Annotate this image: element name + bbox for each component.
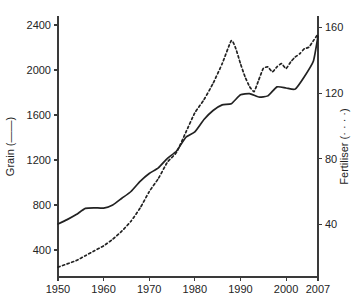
right-tick-label: 160 bbox=[325, 21, 343, 33]
grain-fertiliser-line-chart: 4008001200160020002400 4080120160 195019… bbox=[0, 0, 360, 308]
right-axis-title: Fertiliser (· · · ·) bbox=[338, 108, 350, 184]
bottom-tick-label: 1970 bbox=[137, 283, 161, 295]
left-tick-label: 2400 bbox=[27, 19, 51, 31]
bottom-tick-label: 1980 bbox=[183, 283, 207, 295]
chart-container: 4008001200160020002400 4080120160 195019… bbox=[0, 0, 360, 308]
bottom-tick-label: 2000 bbox=[274, 283, 298, 295]
left-tick-label: 800 bbox=[33, 199, 51, 211]
left-tick-label: 2000 bbox=[27, 64, 51, 76]
bottom-tick-label: 2007 bbox=[306, 283, 330, 295]
chart-background bbox=[0, 0, 360, 308]
bottom-tick-label: 1950 bbox=[46, 283, 70, 295]
left-tick-label: 1200 bbox=[27, 154, 51, 166]
right-tick-label: 120 bbox=[325, 87, 343, 99]
bottom-tick-label: 1990 bbox=[228, 283, 252, 295]
bottom-tick-label: 1960 bbox=[91, 283, 115, 295]
left-tick-label: 400 bbox=[33, 244, 51, 256]
left-axis-title: Grain (——) bbox=[4, 117, 16, 176]
right-tick-label: 80 bbox=[325, 153, 337, 165]
left-tick-label: 1600 bbox=[27, 109, 51, 121]
right-tick-label: 40 bbox=[325, 218, 337, 230]
